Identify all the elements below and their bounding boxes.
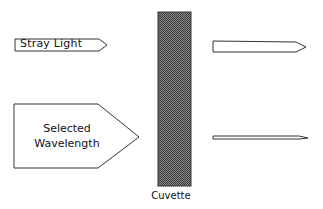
cuvette-label: Cuvette <box>148 190 194 201</box>
stray-light-arrow-out <box>213 41 306 52</box>
selected-wavelength-label-line2: Wavelength <box>22 136 112 151</box>
cuvette-rect <box>158 12 191 186</box>
selected-wavelength-label-line1: Selected <box>22 121 112 136</box>
stray-light-label: Stray Light <box>20 37 82 50</box>
transmitted-light-arrow-out <box>213 136 308 139</box>
diagram-canvas <box>0 0 323 209</box>
selected-wavelength-label: Selected Wavelength <box>22 121 112 151</box>
